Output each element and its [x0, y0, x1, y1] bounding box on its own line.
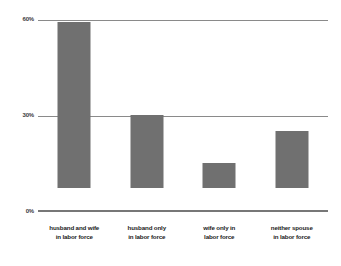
bar-husband-only[interactable] [130, 115, 163, 188]
bar-slot-husband-and-wife: 52% [38, 20, 111, 212]
bar-slot-husband-only: 23% [111, 20, 184, 212]
y-tick-label-60: 60% [2, 16, 34, 23]
category-label-line-1: husband and wife [38, 223, 111, 232]
bar-slot-neither-spouse: 18% [256, 20, 329, 212]
category-label-line-2: in labor force [256, 232, 329, 241]
category-label-line-1: neither spouse [256, 223, 329, 232]
category-label-husband-only: husband only in labor force [111, 223, 184, 241]
plot-area: 52% 23% 8% 18% [38, 20, 328, 212]
category-label-line-1: wife only in [183, 223, 256, 232]
y-tick-label-0: 0% [2, 208, 34, 215]
bar-chart: 60% 30% 0% 52% 23% 8% 18% h [0, 0, 341, 266]
bar-husband-and-wife[interactable] [58, 22, 91, 188]
category-label-line-1: husband only [111, 223, 184, 232]
bar-slot-wife-only: 8% [183, 20, 256, 212]
category-label-line-2: in labor force [38, 232, 111, 241]
y-tick-label-30: 30% [2, 112, 34, 119]
bar-wife-only[interactable] [203, 163, 236, 188]
category-label-neither-spouse: neither spouse in labor force [256, 223, 329, 241]
category-label-line-2: labor force [183, 232, 256, 241]
category-label-wife-only: wife only in labor force [183, 223, 256, 241]
x-axis-category-labels: husband and wife in labor force husband … [38, 223, 328, 251]
bar-neither-spouse[interactable] [275, 131, 308, 188]
category-label-husband-and-wife: husband and wife in labor force [38, 223, 111, 241]
category-label-line-2: in labor force [111, 232, 184, 241]
